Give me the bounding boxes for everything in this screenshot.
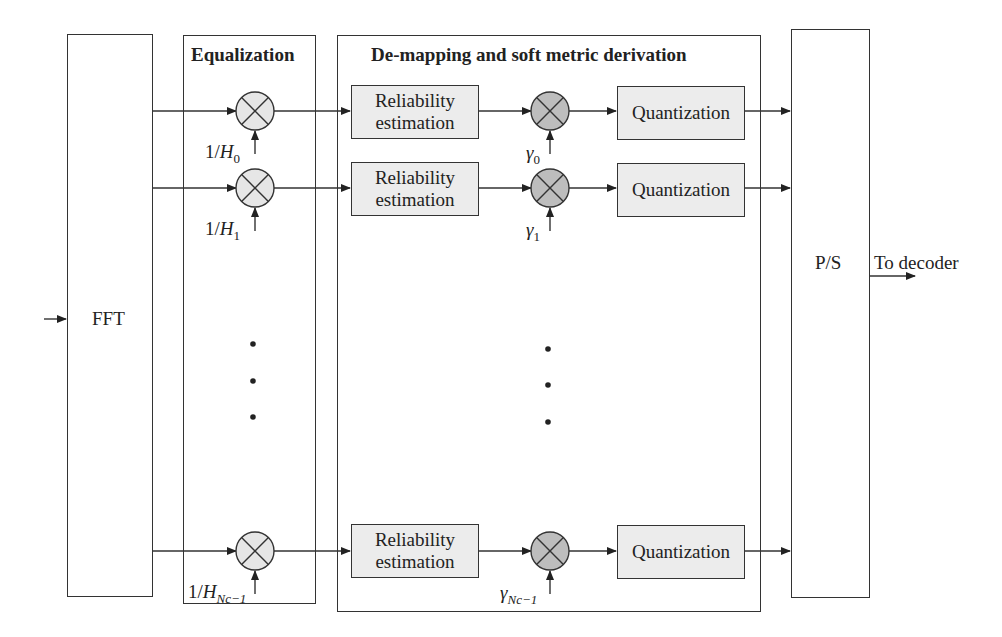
quantization-label: Quantization	[632, 179, 730, 201]
quantization-1: Quantization	[617, 163, 745, 217]
eq-gain-nc-1: 1/HNc−1	[188, 582, 246, 605]
quantization-label: Quantization	[632, 541, 730, 563]
reliability-line1: Reliability	[375, 167, 455, 189]
reliability-estimation-nc-1: Reliability estimation	[351, 524, 479, 578]
demapping-title: De-mapping and soft metric derivation	[371, 45, 687, 64]
fft-label: FFT	[92, 309, 125, 328]
equalization-title: Equalization	[191, 45, 294, 64]
output-label: To decoder	[874, 253, 959, 272]
reliability-estimation-0: Reliability estimation	[351, 85, 479, 139]
gamma-0: γ0	[526, 143, 540, 166]
quantization-0: Quantization	[617, 86, 745, 140]
reliability-estimation-1: Reliability estimation	[351, 162, 479, 216]
reliability-line2: estimation	[375, 112, 454, 134]
ps-label: P/S	[815, 253, 841, 272]
eq-gain-0: 1/H0	[205, 142, 240, 165]
reliability-line1: Reliability	[375, 90, 455, 112]
gamma-nc-1: γNc−1	[500, 583, 537, 606]
reliability-line2: estimation	[375, 551, 454, 573]
quantization-label: Quantization	[632, 102, 730, 124]
gamma-1: γ1	[526, 220, 540, 243]
reliability-line2: estimation	[375, 189, 454, 211]
equalization-group	[183, 35, 316, 604]
reliability-line1: Reliability	[375, 529, 455, 551]
eq-gain-1: 1/H1	[205, 219, 240, 242]
ps-block	[791, 29, 870, 598]
quantization-nc-1: Quantization	[617, 525, 745, 579]
